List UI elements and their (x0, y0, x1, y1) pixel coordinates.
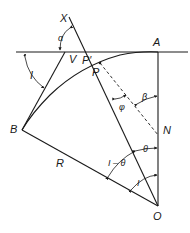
label-alpha: α (58, 33, 64, 43)
label-I-left: I (30, 69, 33, 81)
angle-phi-arc (115, 95, 126, 99)
label-I-bottom: I (137, 178, 140, 188)
label-A: A (152, 36, 160, 48)
label-B: B (10, 123, 17, 135)
label-theta: θ (143, 144, 148, 154)
label-phi: φ (119, 102, 125, 112)
label-P-prime: P′ (82, 54, 92, 66)
line-X-O (69, 17, 158, 206)
label-V: V (69, 53, 78, 65)
label-R: R (56, 157, 64, 169)
label-P: P (92, 66, 100, 78)
angle-I-left-arc (25, 57, 44, 88)
point-P (99, 62, 102, 65)
label-O: O (153, 210, 162, 222)
label-beta: β (141, 92, 147, 102)
label-N: N (163, 124, 171, 136)
line-B-V (22, 52, 65, 130)
line-B-O (22, 130, 158, 206)
curve-geometry-diagram: X α A V P′ P I φ β B N θ R I – θ I O (0, 0, 190, 233)
label-X: X (59, 12, 68, 24)
label-I-minus-theta: I – θ (108, 158, 126, 168)
dashed-line-P-N (100, 63, 158, 135)
